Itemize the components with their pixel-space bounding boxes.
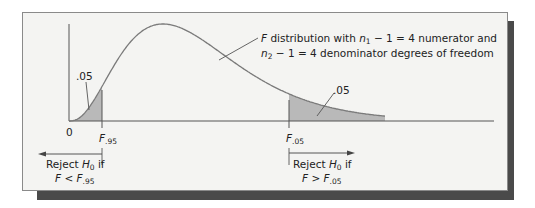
right-arrowhead-icon bbox=[347, 151, 355, 156]
left-tail-shade bbox=[69, 87, 102, 122]
right-reject-line1: Reject H0 if bbox=[293, 158, 352, 172]
left-arrowhead-icon bbox=[38, 152, 46, 157]
left-area-leader bbox=[86, 82, 89, 110]
right-critical-label: F.05 bbox=[286, 132, 304, 146]
curve-label-line2: n2 − 1 = 4 denominator degrees of freedo… bbox=[261, 47, 494, 61]
origin-label: 0 bbox=[66, 126, 73, 138]
f-distribution-diagram: F distribution with n1 − 1 = 4 numerator… bbox=[0, 0, 535, 208]
right-tail-area-label: .05 bbox=[333, 84, 350, 96]
curve-label-leader bbox=[219, 38, 258, 60]
right-tail-shade bbox=[289, 94, 385, 121]
left-tail-area-label: .05 bbox=[76, 70, 93, 82]
left-reject-line1: Reject H0 if bbox=[46, 158, 105, 172]
curve-label-line1: F distribution with n1 − 1 = 4 numerator… bbox=[261, 32, 497, 46]
left-reject-line2: F < F.95 bbox=[55, 172, 95, 186]
right-reject-line2: F > F.05 bbox=[302, 172, 342, 186]
left-critical-label: F.95 bbox=[99, 132, 117, 146]
